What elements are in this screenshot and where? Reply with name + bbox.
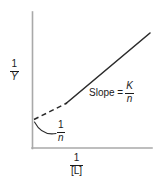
double-reciprocal-plot-figure: 1 Y 1 [L] 1 n Slope = K n xyxy=(0,0,164,184)
extrapolation-dashed-line xyxy=(34,103,67,120)
regression-line xyxy=(66,33,150,104)
plot-canvas xyxy=(0,0,164,184)
intercept-angle-arc xyxy=(35,122,57,134)
